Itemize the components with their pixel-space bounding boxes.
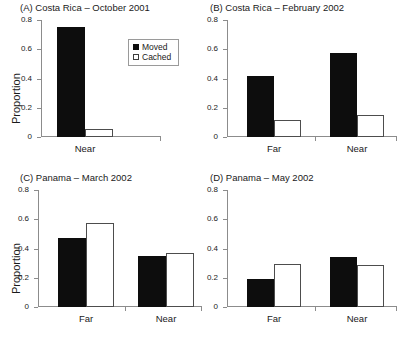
panel-a: (A) Costa Rica – October 2001 Proportion… [0, 2, 202, 172]
panel-c-y-axis [38, 190, 39, 307]
panel-d-ytick-1: 0.2 [223, 278, 227, 279]
panel-d-ytick-4: 0.8 [223, 190, 227, 191]
panel-c-plot-area: 0 0.2 0.4 0.6 0.8 Far Near [38, 190, 202, 307]
panel-b-xtick-label-near: Near [347, 143, 368, 154]
panel-c-ytick-0: 0 [34, 307, 38, 308]
panel-c-bar-near-moved [138, 256, 166, 307]
panel-a-xtick-label-near: Near [75, 143, 96, 154]
panel-c-ytick-1: 0.2 [34, 278, 38, 279]
panel-d-xtick-end [396, 307, 397, 311]
filled-square-icon [133, 44, 139, 50]
figure-panel-grid: (A) Costa Rica – October 2001 Proportion… [0, 0, 404, 345]
panel-a-ytick-label-4: 0.8 [21, 16, 32, 24]
panel-d-ytick-label-1: 0.2 [207, 274, 218, 282]
panel-b-title: (B) Costa Rica – February 2002 [210, 2, 404, 14]
panel-a-y-axis [41, 20, 42, 137]
legend: Moved Cached [128, 39, 179, 66]
legend-entry-cached: Cached [133, 52, 174, 62]
panel-c-ytick-2: 0.4 [34, 249, 38, 250]
panel-b-y-axis [227, 20, 228, 137]
panel-b-ytick-1: 0.2 [223, 108, 227, 109]
panel-b-xtick-end [396, 137, 397, 141]
panel-b-bar-far-cached [274, 120, 301, 137]
panel-b-bar-near-cached [357, 115, 384, 137]
panel-d-plot-area: 0 0.2 0.4 0.6 0.8 Far Near [227, 190, 397, 307]
panel-d-bar-far-cached [274, 264, 301, 307]
panel-a-ytick-1: 0.2 [37, 108, 41, 109]
panel-d-ytick-label-3: 0.6 [207, 215, 218, 223]
panel-d-ytick-label-2: 0.4 [207, 245, 218, 253]
panel-c-title: (C) Panama – March 2002 [20, 172, 202, 184]
panel-a-plot-area: 0 0.2 0.4 0.6 0.8 Near [41, 20, 161, 137]
panel-b: (B) Costa Rica – February 2002 0 0.2 0.4… [202, 2, 404, 172]
panel-d: (D) Panama – May 2002 0 0.2 0.4 0.6 0.8 [202, 172, 404, 345]
panel-d-xtick-separator [315, 307, 316, 311]
panel-c-ytick-label-4: 0.8 [18, 186, 29, 194]
panel-c-xtick-separator [125, 307, 126, 311]
panel-d-bar-near-cached [357, 265, 384, 307]
legend-label-cached: Cached [142, 52, 171, 62]
panel-a-ytick-0: 0 [37, 137, 41, 138]
panel-c-xtick-label-near: Near [156, 313, 177, 324]
panel-d-ytick-2: 0.4 [223, 249, 227, 250]
panel-d-y-axis [227, 190, 228, 307]
panel-d-bar-far-moved [247, 279, 274, 307]
panel-c-ytick-label-3: 0.6 [18, 215, 29, 223]
panel-b-bar-far-moved [247, 76, 274, 137]
legend-entry-moved: Moved [133, 42, 174, 52]
panel-d-ytick-label-0: 0 [214, 303, 218, 311]
panel-b-xtick-label-far: Far [267, 143, 281, 154]
panel-d-bar-near-moved [330, 257, 357, 307]
panel-c-bar-near-cached [166, 253, 194, 307]
panel-a-xtick-end [160, 137, 161, 141]
panel-b-bar-near-moved [330, 53, 357, 138]
panel-a-bar-near-moved [57, 27, 85, 137]
panel-d-xtick-label-far: Far [267, 313, 281, 324]
panel-a-ytick-2: 0.4 [37, 79, 41, 80]
panel-b-ytick-label-4: 0.8 [207, 16, 218, 24]
panel-a-ytick-label-0: 0 [28, 133, 32, 141]
panel-a-ytick-label-2: 0.4 [21, 75, 32, 83]
panel-a-ytick-4: 0.8 [37, 20, 41, 21]
panel-d-ytick-label-4: 0.8 [207, 186, 218, 194]
legend-label-moved: Moved [142, 42, 168, 52]
panel-d-title: (D) Panama – May 2002 [210, 172, 404, 184]
panel-c-ytick-label-1: 0.2 [18, 274, 29, 282]
panel-b-ytick-label-1: 0.2 [207, 104, 218, 112]
panel-d-ytick-0: 0 [223, 307, 227, 308]
panel-d-ytick-3: 0.6 [223, 219, 227, 220]
panel-c-ytick-label-2: 0.4 [18, 245, 29, 253]
panel-b-ytick-label-3: 0.6 [207, 45, 218, 53]
panel-c-ytick-4: 0.8 [34, 190, 38, 191]
panel-a-bar-near-cached [85, 129, 113, 137]
panel-b-ytick-4: 0.8 [223, 20, 227, 21]
panel-b-ytick-2: 0.4 [223, 79, 227, 80]
panel-c-ytick-3: 0.6 [34, 219, 38, 220]
panel-b-ytick-3: 0.6 [223, 49, 227, 50]
panel-a-ytick-label-1: 0.2 [21, 104, 32, 112]
panel-b-ytick-label-0: 0 [214, 133, 218, 141]
panel-b-ytick-label-2: 0.4 [207, 75, 218, 83]
panel-c-bar-far-moved [58, 238, 86, 307]
panel-c-bar-far-cached [86, 223, 114, 307]
panel-b-ytick-0: 0 [223, 137, 227, 138]
panel-a-title: (A) Costa Rica – October 2001 [20, 2, 202, 14]
panel-c-ytick-label-0: 0 [25, 303, 29, 311]
panel-a-ytick-label-3: 0.6 [21, 45, 32, 53]
panel-c-xtick-label-far: Far [79, 313, 93, 324]
panel-a-ytick-3: 0.6 [37, 49, 41, 50]
panel-b-plot-area: 0 0.2 0.4 0.6 0.8 Far Near [227, 20, 397, 137]
panel-b-xtick-separator [315, 137, 316, 141]
open-square-icon [133, 54, 139, 60]
panel-d-xtick-label-near: Near [347, 313, 368, 324]
panel-c: (C) Panama – March 2002 Proportion 0 0.2… [0, 172, 202, 345]
